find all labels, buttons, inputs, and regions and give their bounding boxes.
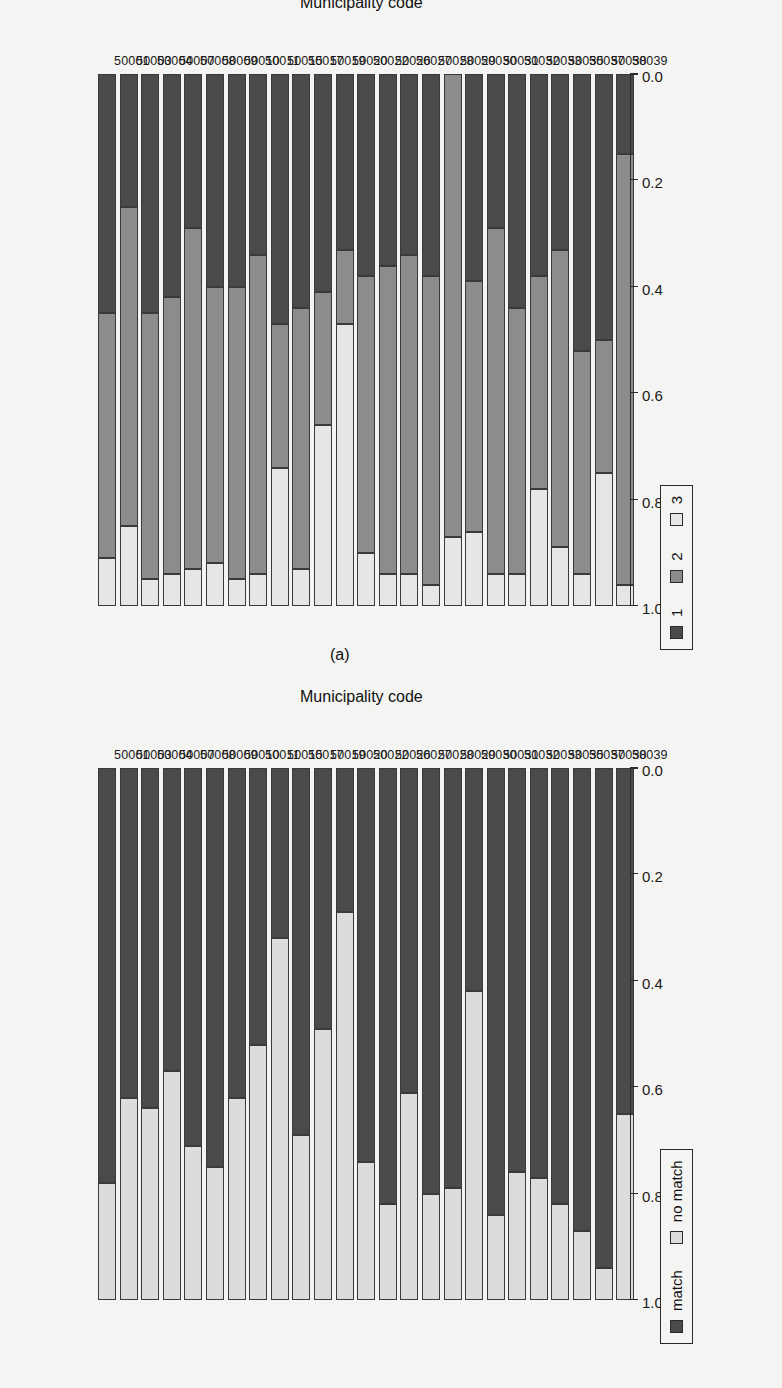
bar-segment — [206, 74, 224, 287]
bar-segment — [551, 547, 569, 606]
bar-segment — [616, 154, 634, 585]
value-axis-tick — [630, 1086, 638, 1087]
legend-item-3: 3 — [668, 496, 685, 526]
bar-segment — [292, 74, 310, 308]
bar-row — [573, 768, 591, 1300]
bar-segment — [314, 292, 332, 425]
bar-segment — [292, 1135, 310, 1300]
panel-b: 1.00.80.60.40.20.0 500015000350004500075… — [0, 0, 782, 694]
bar-segment — [120, 207, 138, 526]
bar-segment — [336, 74, 354, 250]
bar-segment — [444, 768, 462, 1188]
bar-row — [141, 768, 159, 1300]
bar-segment — [508, 1172, 526, 1300]
bar-segment — [616, 585, 634, 606]
bar-row — [444, 768, 462, 1300]
value-axis-tick-label: 0.4 — [642, 975, 663, 992]
bar-segment — [357, 1162, 375, 1300]
bar-segment — [314, 74, 332, 292]
bar-segment — [357, 276, 375, 553]
bar-row — [400, 74, 418, 606]
bar-segment — [422, 768, 440, 1194]
bar-row — [508, 768, 526, 1300]
bar-segment — [206, 1167, 224, 1300]
bar-segment — [228, 579, 246, 606]
bar-row — [292, 768, 310, 1300]
bar-row — [551, 74, 569, 606]
bar-segment — [379, 768, 397, 1204]
bar-segment — [163, 74, 181, 297]
bar-row — [508, 74, 526, 606]
legend-swatch-icon — [670, 1320, 683, 1333]
value-axis-tick-label: 0.0 — [642, 762, 663, 779]
legend-label: 2 — [668, 552, 685, 560]
figure-root: 1.00.80.60.40.20.0 500015000350004500075… — [0, 0, 782, 1388]
bar-segment — [422, 585, 440, 606]
value-axis-endcap — [630, 768, 638, 769]
bar-segment — [573, 574, 591, 606]
bar-segment — [400, 255, 418, 574]
bar-segment — [400, 1093, 418, 1300]
value-axis-endcap — [630, 74, 638, 75]
bar-segment — [357, 768, 375, 1162]
bar-row — [616, 768, 634, 1300]
bar-segment — [336, 324, 354, 606]
bar-segment — [292, 308, 310, 569]
bar-row — [163, 74, 181, 606]
bar-row — [379, 74, 397, 606]
bar-stack-b — [98, 74, 658, 606]
bar-segment — [444, 1188, 462, 1300]
value-axis-endcap — [630, 605, 638, 606]
bar-segment — [184, 74, 202, 228]
value-axis-tick — [630, 392, 638, 393]
bar-segment — [551, 1204, 569, 1300]
value-axis-b: 1.00.80.60.40.20.0 — [630, 74, 631, 606]
bar-row — [163, 768, 181, 1300]
legend-label: 1 — [668, 609, 685, 617]
bar-row — [400, 768, 418, 1300]
bar-segment — [141, 313, 159, 579]
bar-segment — [206, 768, 224, 1167]
bar-segment — [357, 553, 375, 606]
category-tick-label: 50039 — [632, 54, 668, 68]
bar-segment — [184, 569, 202, 606]
bar-segment — [487, 228, 505, 574]
bar-row — [98, 74, 116, 606]
bar-segment — [249, 255, 267, 574]
bar-segment — [487, 1215, 505, 1300]
bar-segment — [400, 574, 418, 606]
bar-segment — [487, 74, 505, 228]
bar-segment — [120, 768, 138, 1098]
bar-segment — [530, 74, 548, 276]
bar-segment — [120, 526, 138, 606]
bar-row — [228, 74, 246, 606]
bar-segment — [228, 74, 246, 287]
bar-segment — [379, 574, 397, 606]
bar-segment — [422, 74, 440, 276]
bar-row — [184, 768, 202, 1300]
bar-segment — [336, 912, 354, 1300]
bar-row — [444, 74, 462, 606]
bar-segment — [422, 276, 440, 585]
bar-segment — [98, 74, 116, 313]
bar-segment — [573, 768, 591, 1231]
bar-row — [616, 74, 634, 606]
bar-row — [487, 768, 505, 1300]
legend-label: no match — [668, 1160, 685, 1222]
bar-row — [379, 768, 397, 1300]
value-axis-tick-label: 0.4 — [642, 281, 663, 298]
bar-segment — [206, 563, 224, 606]
bar-segment — [141, 579, 159, 606]
bar-segment — [595, 768, 613, 1268]
bar-segment — [465, 282, 483, 532]
legend-label: match — [668, 1270, 685, 1311]
bar-segment — [206, 287, 224, 564]
bar-segment — [508, 574, 526, 606]
bar-segment — [573, 1231, 591, 1300]
bar-row — [120, 768, 138, 1300]
legend-item-match: match — [668, 1270, 685, 1333]
bar-segment — [573, 74, 591, 351]
bar-segment — [292, 768, 310, 1135]
legend-swatch-icon — [670, 570, 683, 583]
bar-segment — [465, 74, 483, 281]
